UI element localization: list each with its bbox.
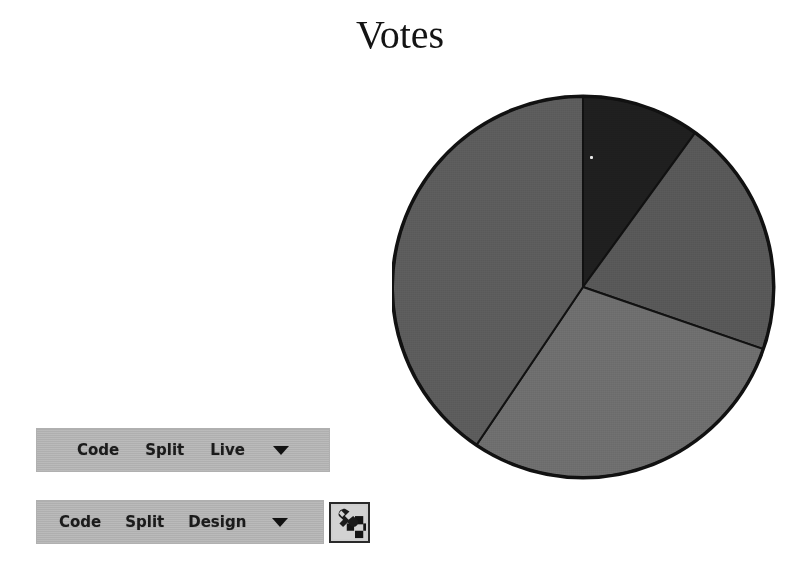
live-toolbar[interactable]: Code Split Live	[36, 428, 330, 472]
pie-slice-group	[393, 97, 773, 477]
page-root: Votes Code Split Live Code Split Design	[0, 0, 792, 576]
split-button[interactable]: Split	[125, 513, 164, 531]
scan-speck	[590, 156, 593, 159]
chevron-down-icon[interactable]	[273, 446, 289, 455]
pie-chart	[392, 90, 786, 488]
chart-title: Votes	[300, 12, 500, 58]
design-toolbar[interactable]: Code Split Design	[36, 500, 324, 544]
split-button[interactable]: Split	[145, 441, 184, 459]
live-button[interactable]: Live	[210, 441, 245, 459]
wrench-tool-icon	[333, 506, 366, 539]
design-button[interactable]: Design	[188, 513, 246, 531]
chevron-down-icon[interactable]	[272, 518, 288, 527]
pie-chart-svg	[392, 90, 786, 488]
code-button[interactable]: Code	[59, 513, 101, 531]
design-toolbar-items: Code Split Design	[37, 513, 288, 531]
code-button[interactable]: Code	[77, 441, 119, 459]
live-toolbar-items: Code Split Live	[37, 441, 289, 459]
wrench-tool-icon-button[interactable]	[329, 502, 370, 543]
